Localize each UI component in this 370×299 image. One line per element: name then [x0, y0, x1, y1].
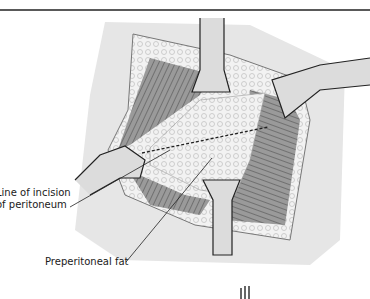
instrument-bottom — [241, 286, 249, 299]
label-preperitoneal-fat: Preperitoneal fat — [45, 256, 128, 268]
illustration-svg — [0, 0, 370, 299]
label-of-peritoneum: of peritoneum — [0, 199, 67, 211]
label-line-of-incision: Line of incision — [0, 187, 71, 199]
surgical-illustration: Line of incision of peritoneum Preperito… — [0, 0, 370, 299]
